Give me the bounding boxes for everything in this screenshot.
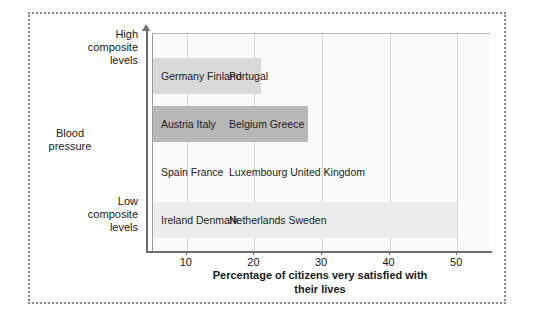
chart-figure: High composite levels Blood pressure Low… [0, 0, 536, 319]
gridline [457, 34, 458, 251]
x-axis-tick-label: 40 [382, 256, 394, 268]
x-axis-tick [253, 251, 254, 255]
x-axis-tick [389, 251, 390, 255]
bar [153, 202, 457, 238]
plot-area: Germany FinlandPortugalAustria ItalyBelg… [152, 33, 490, 251]
x-axis-tick-label: 20 [247, 256, 259, 268]
y-axis-title: Blood pressure [20, 127, 120, 153]
x-axis-tick [321, 251, 322, 255]
bar [153, 58, 261, 94]
bar-country-column-1: Spain France [161, 166, 223, 179]
x-axis-tick-label: 10 [180, 256, 192, 268]
x-axis-line [146, 251, 492, 253]
y-axis-bottom-label: Low composite levels [40, 195, 138, 234]
bar-country-column-2: Luxembourg United Kingdom [229, 166, 365, 179]
x-axis-tick [456, 251, 457, 255]
x-axis-tick-label: 50 [450, 256, 462, 268]
x-axis-tick [186, 251, 187, 255]
x-axis-title: Percentage of citizens very satisfied wi… [200, 269, 440, 296]
x-axis-tick-label: 30 [315, 256, 327, 268]
y-axis-top-label: High composite levels [40, 28, 138, 67]
bar [153, 106, 308, 142]
y-axis-line [146, 30, 148, 252]
